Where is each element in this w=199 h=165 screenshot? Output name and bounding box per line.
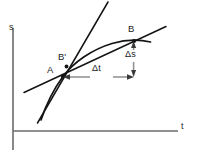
st-graph-diagram: s t A B' B Δt Δs — [0, 0, 199, 165]
delta-s-label: Δs — [125, 50, 136, 59]
delta-s-arrowhead-down — [131, 70, 136, 77]
point-label-b: B — [128, 24, 134, 34]
y-axis-label: s — [9, 23, 14, 32]
delta-t-label: Δt — [92, 64, 101, 73]
diagram-canvas — [0, 0, 199, 165]
axes-group — [13, 28, 178, 150]
point-label-a: A — [47, 65, 53, 75]
x-axis-label: t — [181, 122, 184, 131]
point-label-b-prime: B' — [58, 52, 66, 62]
secant-line-ab — [24, 27, 166, 93]
point-marker-b-prime — [65, 65, 69, 69]
delta-t-dimension — [63, 74, 134, 79]
delta-s-dimension — [131, 41, 136, 77]
